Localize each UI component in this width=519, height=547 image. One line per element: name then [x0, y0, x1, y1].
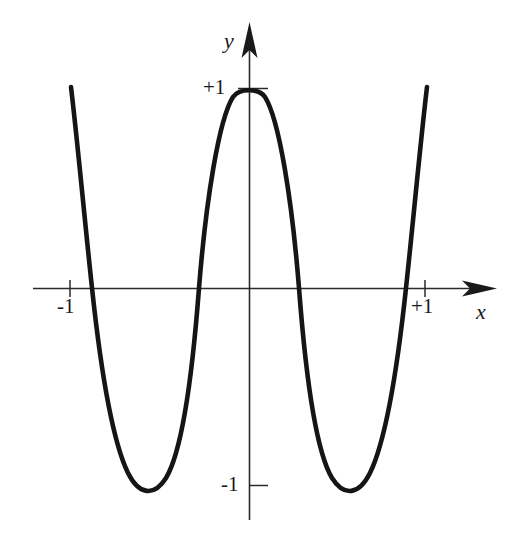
x-axis-label: x — [476, 301, 486, 323]
y-tick-label-neg1: -1 — [221, 474, 239, 495]
y-tick-label-pos1: +1 — [203, 77, 225, 98]
plot-svg — [0, 0, 519, 547]
y-axis-label: y — [224, 30, 234, 52]
x-tick-label-pos1: +1 — [411, 296, 433, 317]
x-tick-label-neg1: -1 — [57, 296, 75, 317]
figure-canvas: y x -1 +1 +1 -1 — [0, 0, 519, 547]
